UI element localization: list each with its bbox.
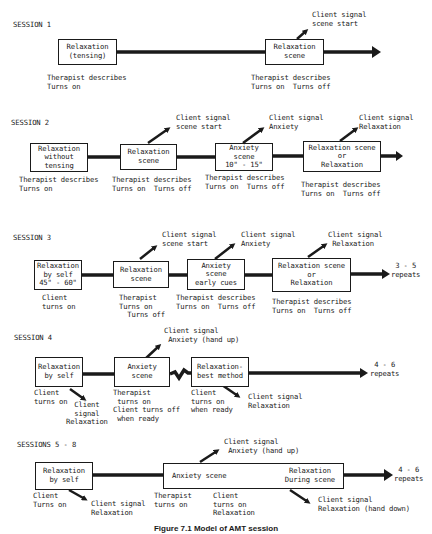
- session-1-box-relaxation-scene: Relaxation scene: [265, 39, 324, 65]
- session-3-signal-scene-start: Client signal scene start: [162, 231, 216, 248]
- session-2-note-3: Therapist describes Turns on Turns off: [205, 174, 284, 191]
- session-3-note-3: Therapist describes Turns on Turns off: [176, 294, 255, 311]
- session-1-box-relaxation-tensing: Relaxation (tensing): [58, 39, 117, 65]
- session-1-note-1: Therapist describes Turns on: [47, 74, 126, 91]
- session-3-box-relaxation-scene-or-relaxation: Relaxation scene or Relaxation: [272, 258, 351, 292]
- session-2-box-relaxation-scene: Relaxation scene: [120, 144, 177, 170]
- session-4-box-relaxation-best-method: Relaxation- best method: [191, 357, 249, 387]
- sessions-5-8-title: SESSIONS 5 - 8: [17, 440, 76, 449]
- session-4-signal-relaxation-2: Client signal Relaxation: [248, 393, 302, 410]
- sessions-5-8-box-anxiety-relaxation-scene: Anxiety scene Relaxation During scene: [163, 463, 344, 489]
- session-4-repeats: 4 - 6 repeats: [370, 361, 399, 378]
- session-4-note-3: Client turns on when ready: [191, 389, 233, 415]
- session-3-note-2: Therapist Turns on Turns off: [119, 294, 165, 320]
- sessions-5-8-signal-relaxation: Client signal Relaxation: [91, 500, 145, 517]
- session-1-title: SESSION 1: [13, 20, 51, 29]
- session-4-signal-anxiety-hand-up: Client signal Anxiety (hand up): [164, 327, 239, 344]
- sessions-5-8-repeats: 4 - 6 repeats: [394, 466, 423, 483]
- sessions-5-8-note-1: Client Turns on: [33, 492, 66, 509]
- session-4-box-relaxation-by-self: Relaxation by self: [35, 357, 83, 387]
- session-1-signal-scene-start: Client signal scene start: [312, 11, 366, 28]
- session-3-box-anxiety-scene-early-cues: Anxiety scene early cues: [187, 259, 245, 290]
- relaxation-during-scene-label: Relaxation During scene: [285, 467, 335, 484]
- sessions-5-8-box-relaxation-by-self: Relaxation by self: [35, 462, 93, 490]
- session-2-note-1: Therapist describes Turns on: [19, 176, 98, 193]
- arrow-head-icon: [372, 46, 381, 58]
- session-4-note-1: Client turns on: [34, 389, 67, 406]
- sessions-5-8-signal-relaxation-hand-down: Client signal Relaxation (hand down): [318, 496, 410, 513]
- session-2-box-anxiety-scene: Anxiety scene 10" - 15": [215, 143, 273, 171]
- session-2-box-relaxation-without-tensing: Relaxation without tensing: [30, 143, 88, 172]
- session-4-title: SESSION 4: [14, 333, 52, 342]
- session-3-repeats: 3 - 5 repeats: [391, 262, 420, 279]
- session-1-note-2: Therapist describes Turns on Turns off: [251, 74, 330, 91]
- session-2-signal-relaxation: Client signal Relaxation: [359, 114, 413, 131]
- session-3-note-4: Therapist describes Turns on Turns off: [272, 298, 351, 315]
- sessions-5-8-note-3: Client turns on Relaxation: [213, 492, 255, 518]
- session-2-note-2: Therapist describes Turns on Turns off: [112, 176, 191, 193]
- session-2-note-4: Therapist describes Turns on Turns off: [301, 181, 380, 198]
- session-2-box-relaxation-scene-or-relaxation: Relaxation scene or Relaxation: [303, 141, 381, 172]
- sessions-5-8-signal-anxiety-hand-up: Client signal Anxiety (hand up): [224, 438, 299, 455]
- session-3-box-relaxation-by-self: Relaxation by self 45" - 60": [34, 260, 82, 290]
- session-3-signal-anxiety: Client signal Anxiety: [241, 231, 295, 248]
- session-2-signal-anxiety: Client signal Anxiety: [269, 114, 323, 131]
- session-4-signal-relaxation-1: Client signal Relaxation: [66, 401, 108, 427]
- figure-caption: Figure 7.1 Model of AMT session: [0, 524, 432, 533]
- session-2-title: SESSION 2: [11, 118, 49, 127]
- session-3-box-relaxation-scene: Relaxation scene: [113, 261, 169, 288]
- anxiety-scene-label: Anxiety scene: [172, 472, 226, 481]
- sessions-5-8-note-2: Therapist turns on: [154, 492, 192, 509]
- session-3-title: SESSION 3: [13, 233, 51, 242]
- session-4-note-2: Therapist turns on Client turns off when…: [113, 389, 180, 423]
- session-3-note-1: Client turns on: [42, 294, 75, 311]
- session-2-signal-scene-start: Client signal scene start: [176, 114, 230, 131]
- session-4-box-anxiety-scene: Anxiety scene: [114, 357, 170, 387]
- session-3-signal-relaxation: Client signal Relaxation: [328, 231, 382, 248]
